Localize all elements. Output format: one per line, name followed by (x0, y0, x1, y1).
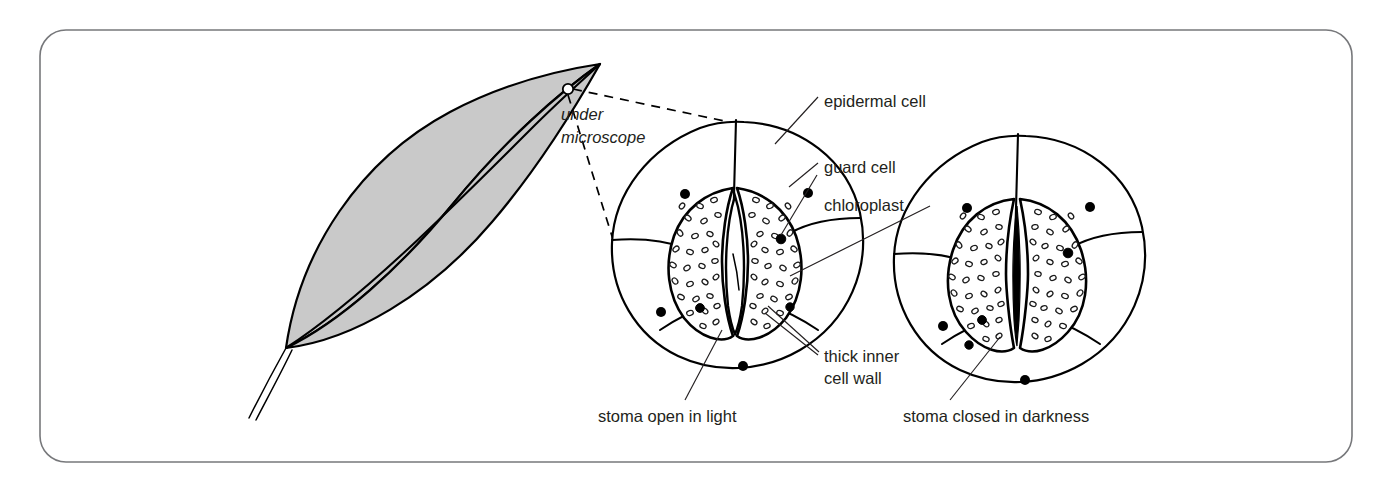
under-microscope-line-2: microscope (561, 128, 645, 146)
figure-canvas: under microscope (0, 0, 1387, 487)
stomata-figure: under microscope (0, 0, 1387, 487)
epidermal-nucleus-upper-right-closed (1085, 202, 1095, 212)
epidermal-nucleus-upper-left (680, 189, 690, 199)
leaf-illustration (249, 64, 600, 420)
caption-stoma-closed: stoma closed in darkness (903, 407, 1089, 425)
label-thick-inner-cell-wall-line-1: thick inner (824, 347, 900, 365)
epidermal-nucleus-lower-left-closed (938, 321, 948, 331)
caption-stoma-open: stoma open in light (598, 407, 737, 425)
label-thick-inner-cell-wall-line-2: cell wall (824, 369, 882, 387)
leaf-petiole-line-1 (249, 348, 286, 418)
epidermal-nucleus-bottom (738, 361, 748, 371)
label-epidermal-cell: epidermal cell (824, 92, 926, 110)
stoma-closed-in-darkness (894, 134, 1145, 385)
epidermal-nucleus-upper-left-closed (962, 203, 972, 213)
label-chloroplast: chloroplast (824, 196, 904, 214)
microscope-point-circle (563, 84, 573, 94)
label-guard-cell: guard cell (824, 158, 896, 176)
epidermal-nucleus-bottom-closed (1020, 375, 1030, 385)
leaf-petiole-line-2 (256, 350, 292, 420)
epidermal-nucleus-lower-left (656, 307, 666, 317)
under-microscope-line-1: under (561, 105, 605, 123)
